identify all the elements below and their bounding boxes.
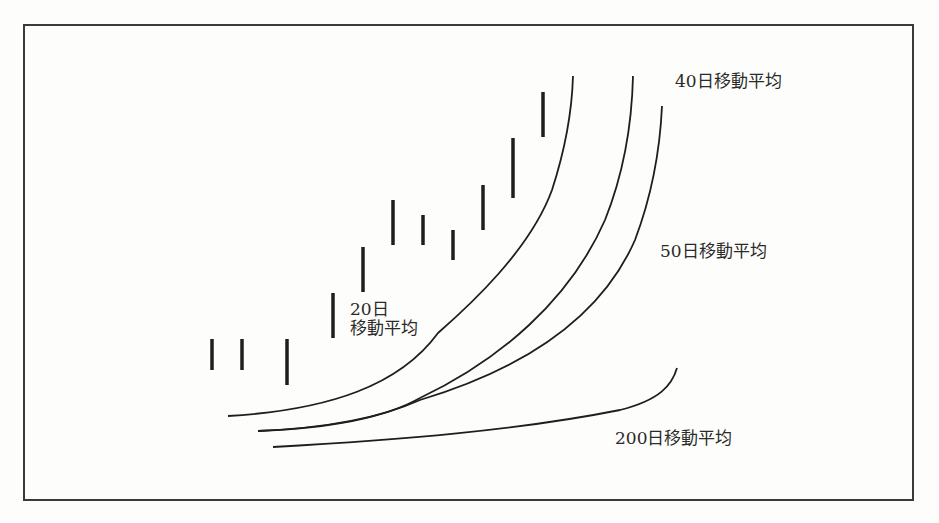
moving-average-curves <box>228 76 677 447</box>
moving-average-line <box>258 106 662 431</box>
ma20-label: 20日 移動平均 <box>350 300 418 338</box>
moving-average-line <box>228 76 573 416</box>
chart-plot <box>0 0 939 523</box>
ma50-label: 50日移動平均 <box>660 242 767 261</box>
ma40-label: 40日移動平均 <box>675 72 782 91</box>
ma200-label: 200日移動平均 <box>615 429 732 448</box>
price-bars <box>212 92 543 385</box>
moving-average-line <box>258 76 633 431</box>
ma20-label-line2: 移動平均 <box>350 319 418 338</box>
ma20-label-line1: 20日 <box>350 300 418 319</box>
